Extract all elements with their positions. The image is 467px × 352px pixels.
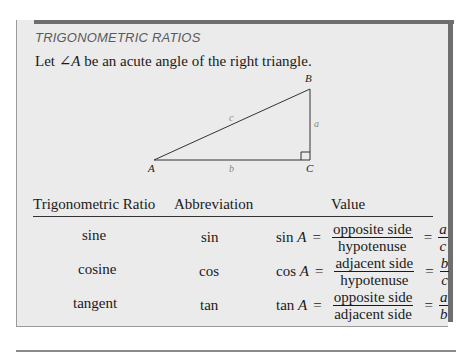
cosine-word-fraction: adjacent sidehypotenuse: [334, 255, 414, 288]
equals-sign: =: [424, 229, 432, 246]
side-c-label: c: [229, 112, 234, 123]
side-a-label: a: [314, 118, 319, 129]
vertex-a-label: A: [147, 162, 155, 174]
equals-sign: =: [312, 229, 320, 246]
sine-formula: sin A = opposite sidehypotenuse = ac: [276, 221, 448, 254]
vertex-b-label: B: [305, 72, 312, 84]
abbr-sin: sin: [201, 229, 219, 246]
cosine-formula: cos A = adjacent sidehypotenuse = bc: [276, 255, 449, 288]
equals-sign: =: [313, 297, 321, 314]
cosine-letter-fraction: bc: [440, 255, 450, 288]
equals-sign: =: [425, 263, 433, 280]
side-b-label: b: [229, 163, 234, 174]
header-rule: [33, 216, 433, 217]
header-ratio: Trigonometric Ratio: [33, 196, 155, 213]
sine-word-fraction: opposite sidehypotenuse: [332, 221, 413, 254]
sine-letter-fraction: ac: [438, 221, 448, 254]
abbr-tan: tan: [200, 297, 218, 314]
abbr-cos: cos: [199, 263, 219, 280]
tangent-formula: tan A = opposite sideadjacent side = ab: [276, 289, 448, 322]
ratio-tangent: tangent: [73, 295, 117, 312]
tangent-word-fraction: opposite sideadjacent side: [333, 289, 414, 322]
header-value: Value: [331, 196, 365, 213]
header-abbreviation: Abbreviation: [174, 196, 253, 213]
sine-lhs: sin A: [276, 229, 306, 246]
tangent-letter-fraction: ab: [439, 289, 449, 322]
cosine-lhs: cos A: [276, 263, 309, 280]
vertex-c-label: C: [306, 162, 314, 174]
ratio-cosine: cosine: [78, 261, 116, 278]
equals-sign: =: [424, 297, 432, 314]
ratio-sine: sine: [82, 227, 106, 244]
tangent-lhs: tan A: [276, 297, 307, 314]
equals-sign: =: [315, 263, 323, 280]
